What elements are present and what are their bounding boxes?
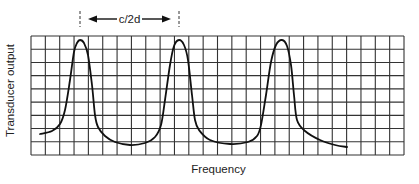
annotation-c2d: c/2d — [80, 11, 179, 27]
x-axis-label: Frequency — [0, 163, 419, 175]
plot-canvas: c/2d — [0, 0, 419, 184]
resonance-diagram: c/2d Transducer output Frequency — [0, 0, 419, 184]
annotation-label: c/2d — [119, 13, 141, 25]
response-curve — [40, 40, 347, 147]
y-axis-label: Transducer output — [4, 44, 16, 137]
arrowhead-right-icon — [162, 16, 171, 23]
arrowhead-left-icon — [88, 16, 97, 23]
